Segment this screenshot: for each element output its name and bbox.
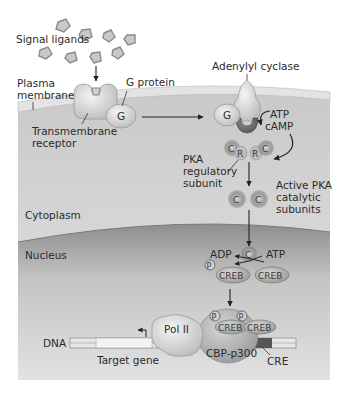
camp-signaling-diagram: Signal ligands Plasma membrane Transmemb…	[0, 0, 351, 393]
signal-ligands-label: Signal ligands	[16, 33, 89, 45]
active-c-right: C	[255, 195, 261, 205]
phosphate-3-letter: P	[239, 313, 244, 322]
target-gene-region	[96, 338, 152, 348]
active-pka-label-line1: Active PKA	[276, 179, 333, 191]
atp-label: ATP	[270, 108, 289, 120]
plasma-membrane-label-line2: membrane	[17, 89, 74, 101]
pka-regulatory-label-line2: regulatory	[183, 165, 237, 177]
creb-dimer-right-label: CREB	[247, 323, 271, 333]
nucleus-label: Nucleus	[25, 249, 67, 261]
g-protein-label: G protein	[126, 76, 175, 88]
phosphate-2-letter: P	[212, 313, 217, 322]
creb-phosphorylated-label: CREB	[219, 271, 243, 281]
dna-label: DNA	[43, 337, 67, 349]
pka-c-left: C	[228, 144, 234, 154]
active-pka-label-line3: subunits	[276, 203, 321, 215]
cre-label: CRE	[267, 355, 288, 367]
atp-nuclear-label: ATP	[266, 248, 285, 260]
plasma-membrane-label-line1: Plasma	[17, 77, 55, 89]
pka-regulatory-label-line3: subunit	[183, 177, 222, 189]
adenylyl-cyclase-label: Adenylyl cyclase	[212, 60, 299, 72]
pka-r-right: R	[252, 149, 258, 159]
camp-label: cAMP	[265, 120, 293, 132]
g-protein-left-letter: G	[117, 110, 125, 122]
cytoplasm-label: Cytoplasm	[25, 209, 81, 221]
pka-c-right: C	[262, 144, 268, 154]
g-protein-right-letter: G	[223, 109, 231, 121]
pol-ii-label: Pol II	[164, 323, 189, 335]
pka-regulatory-label-line1: PKA	[183, 153, 204, 165]
adp-label: ADP	[210, 248, 232, 260]
creb-unphosphorylated-label: CREB	[258, 271, 282, 281]
signal-ligands: Signal ligands	[16, 19, 135, 63]
pka-r-left: R	[237, 149, 243, 159]
active-c-left: C	[233, 195, 239, 205]
cbp-p300-label: CBP-p300	[206, 347, 257, 359]
transmembrane-receptor-label-line2: receptor	[32, 137, 77, 149]
phosphate-1-letter: P	[207, 262, 212, 271]
creb-dimer-left-label: CREB	[218, 323, 242, 333]
active-pka-label-line2: catalytic	[276, 191, 321, 203]
target-gene-label: Target gene	[96, 354, 159, 366]
transmembrane-receptor-label-line1: Transmembrane	[31, 125, 117, 137]
